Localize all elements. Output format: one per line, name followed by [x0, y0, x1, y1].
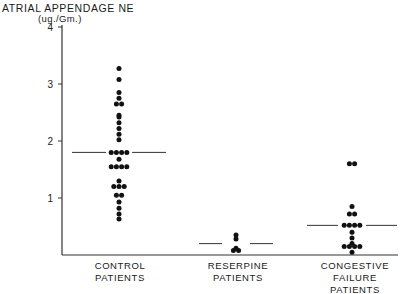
data-point: [124, 164, 129, 169]
data-point: [114, 164, 119, 169]
data-point: [347, 244, 352, 249]
data-point: [117, 178, 122, 183]
data-point: [117, 126, 122, 131]
data-point: [350, 235, 355, 240]
data-point: [117, 66, 122, 71]
data-point: [114, 101, 119, 106]
data-point: [352, 223, 357, 228]
y-tick-label: 2: [47, 136, 53, 147]
data-point: [117, 157, 122, 162]
data-point: [114, 150, 119, 155]
data-point: [117, 137, 122, 142]
data-point: [347, 223, 352, 228]
plot-area: 1234: [0, 0, 406, 294]
data-point: [117, 96, 122, 101]
y-tick-label: 1: [47, 193, 53, 204]
data-point: [357, 244, 362, 249]
data-point: [119, 164, 124, 169]
data-point: [117, 184, 122, 189]
y-tick-label: 3: [47, 79, 53, 90]
data-point: [350, 230, 355, 235]
data-point: [119, 193, 124, 198]
data-point: [352, 161, 357, 166]
y-tick-label: 4: [47, 22, 53, 33]
data-point: [234, 237, 239, 242]
data-point: [109, 164, 114, 169]
x-label-control: CONTROL PATIENTS: [82, 260, 158, 284]
data-point: [119, 101, 124, 106]
data-point: [342, 244, 347, 249]
data-point: [117, 115, 122, 120]
data-point: [357, 223, 362, 228]
data-point: [117, 217, 122, 222]
data-point: [117, 90, 122, 95]
data-point: [117, 77, 122, 82]
data-point: [350, 250, 355, 255]
data-point: [236, 248, 241, 253]
data-point: [122, 184, 127, 189]
data-point: [117, 132, 122, 137]
data-point: [117, 199, 122, 204]
data-point: [231, 248, 236, 253]
data-point: [347, 211, 352, 216]
data-point: [117, 206, 122, 211]
data-point: [124, 150, 129, 155]
data-point: [109, 150, 114, 155]
data-point: [342, 223, 347, 228]
x-label-congestive: CONGESTIVE FAILURE PATIENTS: [313, 260, 397, 294]
data-point: [114, 193, 119, 198]
x-label-reserpine: RESERPINE PATIENTS: [198, 260, 278, 284]
data-point: [352, 244, 357, 249]
data-point: [352, 211, 357, 216]
data-point: [117, 120, 122, 125]
data-point: [111, 184, 116, 189]
data-point: [119, 150, 124, 155]
data-point: [350, 204, 355, 209]
data-point: [347, 161, 352, 166]
data-point: [117, 211, 122, 216]
